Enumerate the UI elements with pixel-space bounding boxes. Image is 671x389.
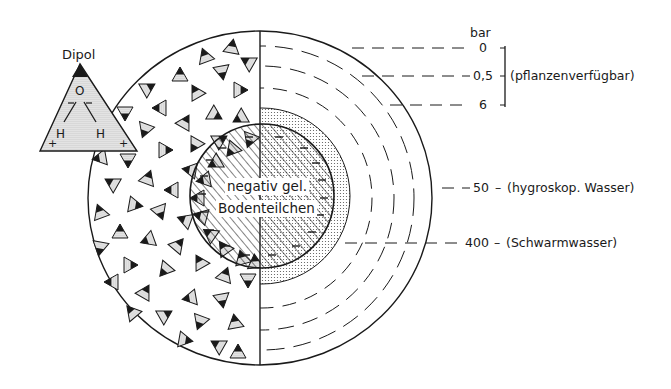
scale-value-0: 0 (479, 41, 487, 55)
scale-value-400: 400 (465, 236, 489, 250)
dipole-title: Dipol (62, 48, 95, 62)
bracket-label: (pflanzenverfügbar) (510, 69, 635, 83)
scale-value-50: 50 (473, 181, 489, 195)
scale-unit: bar (470, 26, 491, 40)
charge-plus-left: + (48, 137, 57, 151)
scale-note-schwarmwasser: (Schwarmwasser) (506, 236, 617, 250)
oxygen-label: O (75, 84, 84, 98)
scale-ticks (500, 46, 505, 107)
scale-value-6: 6 (479, 98, 487, 112)
core-label-line1: negativ gel. (225, 178, 309, 195)
charge-plus-right: + (119, 137, 128, 151)
dash-400: – (494, 236, 500, 250)
scale-value-0-5: 0,5 (473, 69, 493, 83)
hydrogen-left-label: H (56, 127, 65, 141)
scale-note-hygroskop: (hygroskop. Wasser) (507, 181, 634, 195)
hydrogen-right-label: H (96, 127, 105, 141)
soil-particle (190, 124, 334, 268)
dash-50: – (495, 181, 501, 195)
core-label-line2: Bodenteilchen (216, 200, 317, 217)
